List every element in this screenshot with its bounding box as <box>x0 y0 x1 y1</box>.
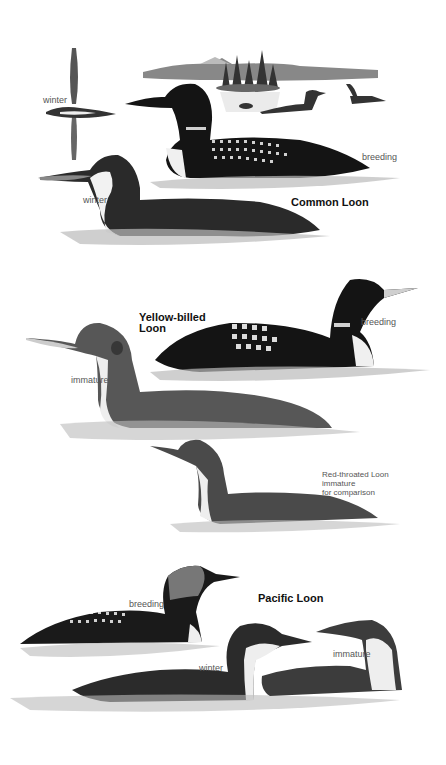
red-throated-loon-immature <box>150 440 400 533</box>
species-title-yellow-billed-line2: Loon <box>139 322 166 334</box>
label-common-winter: winter <box>83 195 107 205</box>
label-yellow-billed-immature: immature <box>71 375 109 385</box>
pacific-loon-breeding <box>20 566 240 657</box>
label-pacific-winter: winter <box>199 663 223 673</box>
label-red-throated-line3: for comparison <box>322 488 375 498</box>
label-pacific-immature: immature <box>333 649 371 659</box>
label-pacific-breeding: breeding <box>129 599 164 609</box>
species-title-pacific-loon: Pacific Loon <box>258 592 323 604</box>
label-common-breeding: breeding <box>362 152 397 162</box>
pacific-loon-immature <box>262 620 402 696</box>
yellow-billed-loon-breeding <box>150 279 430 381</box>
loon-plate-illustration <box>0 0 446 765</box>
label-common-winter-flying: winter <box>43 95 67 105</box>
label-yellow-billed-breeding: breeding <box>361 317 396 327</box>
species-title-common-loon: Common Loon <box>291 196 369 208</box>
